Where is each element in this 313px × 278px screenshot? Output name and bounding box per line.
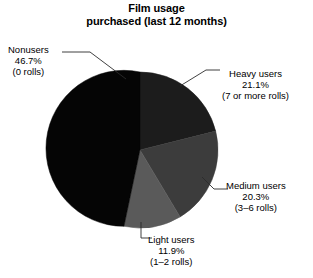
pie-label-light-users-note: (1–2 rolls): [148, 256, 194, 267]
pie-label-nonusers-note: (0 rolls): [8, 66, 49, 77]
pie-label-nonusers-percent: 46.7%: [8, 55, 49, 66]
pie-label-medium-users-percent: 20.3%: [226, 191, 286, 202]
pie-label-heavy-users-name: Heavy users: [222, 68, 289, 79]
pie-label-light-users-percent: 11.9%: [148, 245, 194, 256]
pie-label-medium-users-note: (3–6 rolls): [226, 202, 286, 213]
pie-label-medium-users: Medium users 20.3% (3–6 rolls): [226, 180, 286, 214]
pie-label-nonusers: Nonusers 46.7% (0 rolls): [8, 44, 49, 78]
leader-line-heavy-users: [180, 70, 220, 86]
pie-label-light-users-name: Light users: [148, 234, 194, 245]
pie-label-light-users: Light users 11.9% (1–2 rolls): [148, 234, 194, 268]
pie-label-medium-users-name: Medium users: [226, 180, 286, 191]
pie-label-heavy-users-percent: 21.1%: [222, 79, 289, 90]
pie-label-nonusers-name: Nonusers: [8, 44, 49, 55]
pie-label-heavy-users-note: (7 or more rolls): [222, 90, 289, 101]
pie-slice-nonusers: [46, 70, 140, 226]
pie-label-heavy-users: Heavy users 21.1% (7 or more rolls): [222, 68, 289, 102]
pie-chart: Film usage purchased (last 12 months) No…: [0, 0, 313, 278]
